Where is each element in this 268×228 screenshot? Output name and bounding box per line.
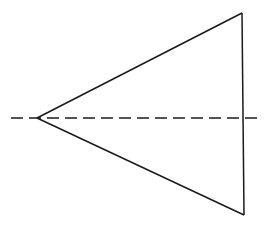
geometry-figure: [0, 0, 268, 228]
figure-background: [0, 0, 268, 228]
figure-canvas: [0, 0, 268, 228]
